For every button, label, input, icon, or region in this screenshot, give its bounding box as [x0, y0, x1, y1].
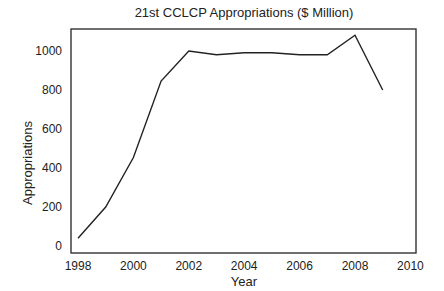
plot-frame [71, 29, 416, 253]
x-tick-label: 1998 [65, 259, 92, 273]
y-tick-label: 400 [42, 161, 62, 175]
appropriations-line [78, 35, 383, 238]
line-chart: 21st CCLCP Appropriations ($ Million) 02… [0, 0, 444, 291]
x-axis-label: Year [231, 274, 258, 289]
y-axis-ticks: 02004006008001000 [35, 44, 62, 253]
y-tick-label: 200 [42, 200, 62, 214]
x-tick-label: 2004 [231, 259, 258, 273]
y-tick-label: 800 [42, 83, 62, 97]
x-tick-label: 2006 [286, 259, 313, 273]
x-axis-ticks: 1998200020022004200620082010 [65, 259, 424, 273]
x-tick-label: 2010 [397, 259, 424, 273]
y-tick-label: 600 [42, 122, 62, 136]
x-tick-label: 2008 [342, 259, 369, 273]
y-tick-label: 0 [55, 239, 62, 253]
x-tick-label: 2002 [175, 259, 202, 273]
y-axis-label: Appropriations [20, 121, 35, 205]
y-tick-label: 1000 [35, 44, 62, 58]
chart-title: 21st CCLCP Appropriations ($ Million) [135, 5, 354, 20]
x-tick-label: 2000 [120, 259, 147, 273]
